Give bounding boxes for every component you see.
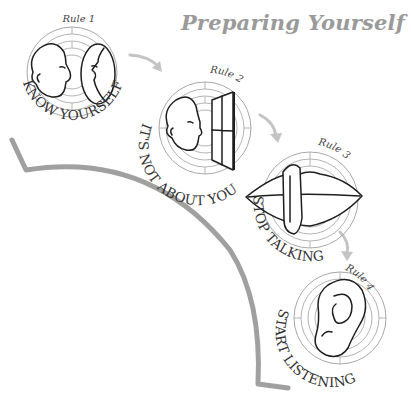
rule-1: Rule 1 KNOW YOURSELF	[20, 13, 126, 123]
rule-2: Rule 2 IT'S NOT ABOUT YOU	[136, 64, 251, 209]
rule-3-label: Rule 3	[317, 136, 353, 161]
rule-1-label: Rule 1	[62, 13, 96, 24]
diagram-graphics: Rule 1 KNOW YOURSELF Rule 2 IT'S NOT ABO…	[0, 0, 411, 399]
rule-1-caption: KNOW YOURSELF	[20, 77, 126, 122]
arrow-2-to-3	[260, 115, 282, 143]
preparing-yourself-diagram: Preparing Yourself	[0, 0, 411, 399]
rule-3: Rule 3 STOP TALKING	[246, 136, 362, 264]
rule-4: Rule 4 START LISTENING	[273, 261, 386, 390]
rule-2-label: Rule 2	[209, 64, 246, 85]
arrow-1-to-2	[130, 55, 162, 72]
